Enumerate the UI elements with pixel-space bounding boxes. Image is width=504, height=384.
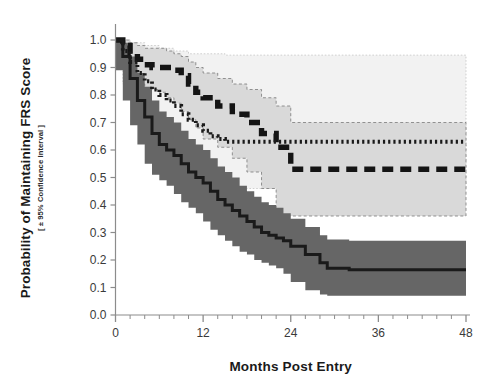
y-tick-label: 0.8	[90, 88, 107, 102]
y-tick-label: 0.2	[90, 253, 107, 267]
y-tick-label: 0.0	[90, 308, 107, 322]
y-tick-label: 0.1	[90, 281, 107, 295]
y-tick-label: 0.7	[90, 116, 107, 130]
x-tick-label: 36	[372, 326, 386, 340]
y-tick-label: 0.5	[90, 171, 107, 185]
survival-chart-figure: 0.00.10.20.30.40.50.60.70.80.91.00122436…	[0, 0, 504, 384]
y-tick-label: 0.6	[90, 143, 107, 157]
x-axis-title: Months Post Entry	[229, 359, 352, 374]
x-tick-label: 0	[112, 326, 119, 340]
y-tick-label: 0.3	[90, 226, 107, 240]
x-tick-label: 48	[459, 326, 473, 340]
chart-canvas: 0.00.10.20.30.40.50.60.70.80.91.00122436…	[0, 0, 504, 384]
y-tick-label: 1.0	[90, 33, 107, 47]
y-axis-title: Probability of Maintaining FRS Score	[18, 57, 33, 298]
y-axis-subtitle: [ ± 95% Confidence Interval ]	[36, 125, 45, 232]
y-tick-label: 0.4	[90, 198, 107, 212]
x-tick-label: 12	[196, 326, 210, 340]
x-tick-label: 24	[284, 326, 298, 340]
y-tick-label: 0.9	[90, 61, 107, 75]
